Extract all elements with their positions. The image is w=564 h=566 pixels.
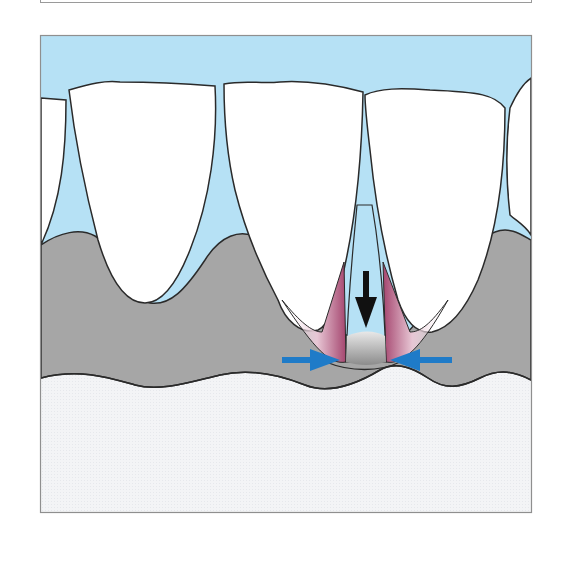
- dental-diagram: [0, 0, 564, 566]
- papilla-gray-tip: [346, 332, 386, 366]
